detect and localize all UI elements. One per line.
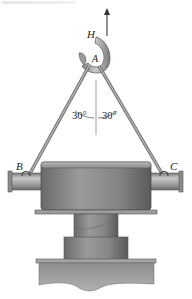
label-b: B — [16, 161, 23, 172]
cable-ab — [28, 66, 89, 177]
left-pipe — [8, 171, 43, 192]
cable-ac — [99, 66, 164, 177]
angle-right-label: 30° — [102, 111, 117, 122]
force-arrow-icon — [104, 8, 110, 36]
collar — [64, 237, 128, 260]
housing — [35, 162, 157, 214]
angle-left-label: 30° — [72, 111, 87, 122]
figure-drawing — [0, 0, 192, 299]
cropped-caption-line — [2, 1, 76, 4]
base-plate — [36, 259, 156, 263]
base-block — [39, 263, 154, 291]
label-h: H — [87, 29, 95, 40]
shaft — [74, 214, 118, 238]
label-a: A — [92, 54, 98, 64]
right-pipe — [150, 171, 183, 192]
lifting-figure: H A B C 30° 30° — [0, 0, 192, 299]
label-c: C — [170, 161, 177, 172]
